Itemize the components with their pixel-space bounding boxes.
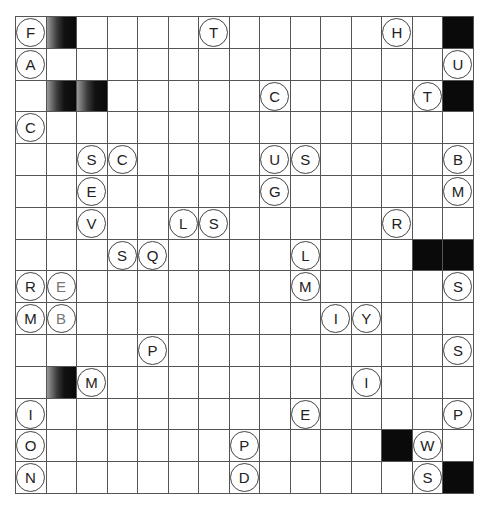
grid-cell[interactable] [77,335,108,367]
grid-cell[interactable] [382,462,413,494]
grid-cell[interactable]: M [16,303,47,335]
grid-cell[interactable] [230,367,261,399]
grid-cell[interactable] [47,430,78,462]
grid-cell[interactable]: H [382,17,413,49]
grid-cell[interactable] [321,271,352,303]
grid-cell[interactable]: S [413,462,444,494]
grid-cell[interactable] [352,240,383,272]
grid-cell[interactable] [77,49,108,81]
grid-cell[interactable] [413,17,444,49]
grid-cell[interactable] [47,112,78,144]
grid-cell[interactable] [138,399,169,431]
grid-cell[interactable] [108,112,139,144]
grid-cell[interactable] [443,208,474,240]
grid-cell[interactable] [77,399,108,431]
grid-cell[interactable]: C [16,112,47,144]
grid-cell[interactable] [169,17,200,49]
grid-cell[interactable]: L [169,208,200,240]
grid-cell[interactable] [230,81,261,113]
grid-cell[interactable]: P [230,430,261,462]
grid-cell[interactable] [321,112,352,144]
grid-cell[interactable] [321,367,352,399]
grid-cell[interactable]: P [138,335,169,367]
grid-cell[interactable] [413,335,444,367]
grid-cell[interactable] [77,462,108,494]
grid-cell[interactable] [230,17,261,49]
grid-cell[interactable] [413,49,444,81]
grid-cell[interactable] [199,399,230,431]
grid-cell[interactable] [321,399,352,431]
grid-cell[interactable] [169,303,200,335]
grid-cell[interactable] [291,430,322,462]
grid-cell[interactable]: S [291,144,322,176]
grid-cell[interactable] [169,81,200,113]
grid-cell[interactable] [138,144,169,176]
grid-cell[interactable] [352,462,383,494]
grid-cell[interactable] [108,335,139,367]
grid-cell[interactable]: S [443,335,474,367]
grid-cell[interactable] [108,208,139,240]
grid-cell[interactable] [230,335,261,367]
grid-cell[interactable] [16,81,47,113]
grid-cell[interactable]: Q [138,240,169,272]
grid-cell[interactable] [108,81,139,113]
grid-cell[interactable] [47,399,78,431]
grid-cell[interactable] [169,271,200,303]
grid-cell[interactable] [47,49,78,81]
grid-cell[interactable] [352,81,383,113]
grid-cell[interactable] [199,49,230,81]
grid-cell[interactable] [291,208,322,240]
grid-cell[interactable] [47,335,78,367]
grid-cell[interactable] [16,240,47,272]
grid-cell[interactable]: E [47,271,78,303]
grid-cell[interactable] [138,49,169,81]
grid-cell[interactable] [108,462,139,494]
grid-cell[interactable] [47,208,78,240]
grid-cell[interactable] [138,367,169,399]
grid-cell[interactable]: U [443,49,474,81]
grid-cell[interactable] [382,144,413,176]
grid-cell[interactable] [382,271,413,303]
grid-cell[interactable] [169,462,200,494]
grid-cell[interactable]: O [16,430,47,462]
grid-cell[interactable] [138,176,169,208]
grid-cell[interactable] [77,240,108,272]
grid-cell[interactable]: B [47,303,78,335]
grid-cell[interactable]: E [291,399,322,431]
grid-cell[interactable] [260,112,291,144]
grid-cell[interactable] [260,303,291,335]
grid-cell[interactable] [47,144,78,176]
grid-cell[interactable] [77,17,108,49]
grid-cell[interactable] [321,430,352,462]
grid-cell[interactable] [413,303,444,335]
grid-cell[interactable] [291,176,322,208]
grid-cell[interactable]: Y [352,303,383,335]
grid-cell[interactable] [321,335,352,367]
grid-cell[interactable]: A [16,49,47,81]
grid-cell[interactable] [47,462,78,494]
grid-cell[interactable] [352,430,383,462]
grid-cell[interactable] [382,367,413,399]
grid-cell[interactable] [291,112,322,144]
grid-cell[interactable] [230,49,261,81]
grid-cell[interactable] [199,335,230,367]
grid-cell[interactable] [169,49,200,81]
grid-cell[interactable] [16,208,47,240]
grid-cell[interactable] [382,81,413,113]
grid-cell[interactable] [199,367,230,399]
grid-cell[interactable] [16,144,47,176]
grid-cell[interactable] [413,271,444,303]
grid-cell[interactable] [260,271,291,303]
grid-cell[interactable] [169,240,200,272]
grid-cell[interactable] [321,208,352,240]
grid-cell[interactable] [230,112,261,144]
grid-cell[interactable]: U [260,144,291,176]
grid-cell[interactable] [138,112,169,144]
grid-cell[interactable]: N [16,462,47,494]
grid-cell[interactable] [16,367,47,399]
grid-cell[interactable]: C [108,144,139,176]
grid-cell[interactable] [138,303,169,335]
grid-cell[interactable]: G [260,176,291,208]
grid-cell[interactable]: I [16,399,47,431]
grid-cell[interactable]: R [382,208,413,240]
